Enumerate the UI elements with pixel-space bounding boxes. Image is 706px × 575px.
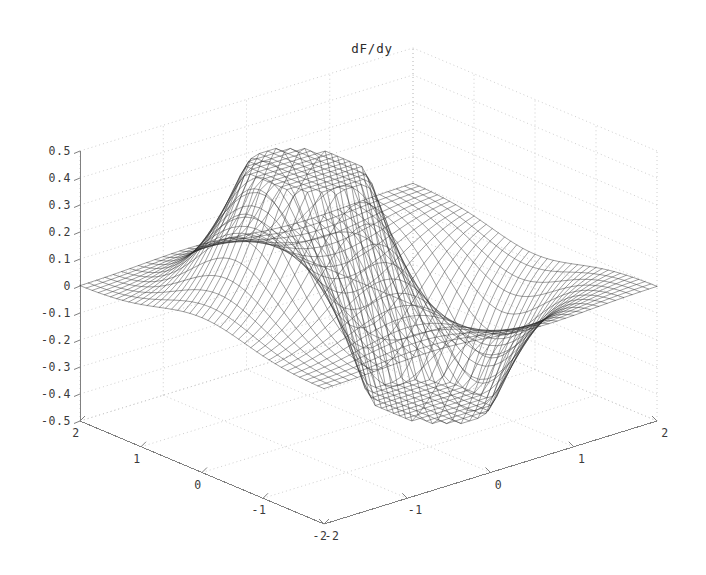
z-tick-mark xyxy=(74,313,80,316)
x-tick-mark xyxy=(263,493,268,498)
x-tick-label: 1 xyxy=(133,452,141,466)
z-tick-label: 0.1 xyxy=(48,252,71,266)
mesh-surface xyxy=(80,148,657,423)
y-tick-label: 2 xyxy=(661,426,669,440)
floor-grid-line xyxy=(263,395,596,498)
z-tick-mark xyxy=(74,205,80,208)
wall-grid-line xyxy=(413,75,657,178)
z-tick-label: 0.3 xyxy=(48,198,71,212)
x-tick-label: 2 xyxy=(72,426,80,440)
z-tick-mark xyxy=(74,421,80,424)
z-tick-mark xyxy=(74,394,80,397)
mesh-line-y xyxy=(396,189,640,292)
mesh-line-y xyxy=(388,192,632,297)
z-tick-mark xyxy=(74,286,80,289)
mesh-line-y xyxy=(97,280,341,383)
z-tick-label: 0.4 xyxy=(48,171,71,185)
mesh-line-y xyxy=(213,148,457,344)
x-tick-label: 0 xyxy=(194,478,202,492)
floor-grid-line xyxy=(141,344,474,447)
plot-title: dF/dy xyxy=(351,41,393,56)
y-tick-label: 0 xyxy=(495,478,503,492)
mesh-line-y xyxy=(280,228,524,424)
z-tick-label: -0.2 xyxy=(41,333,71,347)
y-tick-mark xyxy=(652,416,657,421)
mesh-line-y xyxy=(88,283,332,386)
z-tick-mark xyxy=(74,367,80,370)
z-tick-label: -0.5 xyxy=(41,414,71,428)
mesh-line-y xyxy=(105,275,349,380)
y-tick-mark xyxy=(569,442,574,447)
z-tick-label: -0.4 xyxy=(41,387,71,401)
x-tick-mark xyxy=(141,442,146,447)
mesh-line-y xyxy=(238,232,482,339)
surface-plot-svg: -0.5-0.4-0.3-0.2-0.100.10.20.30.40.5-2-1… xyxy=(0,0,706,575)
y-tick-label: -1 xyxy=(408,503,423,517)
x-tick-label: -1 xyxy=(251,503,266,517)
y-tick-mark xyxy=(402,493,407,498)
x-tick-mark xyxy=(80,416,85,421)
mesh-line-y xyxy=(255,233,499,340)
x-tick-mark xyxy=(202,468,207,473)
wall-grid-line xyxy=(80,75,413,178)
z-tick-mark xyxy=(74,232,80,235)
mesh-line-y xyxy=(288,225,532,423)
z-tick-label: -0.3 xyxy=(41,360,71,374)
z-tick-label: 0.5 xyxy=(48,144,71,158)
z-tick-mark xyxy=(74,178,80,181)
z-tick-label: 0 xyxy=(63,279,71,293)
y-tick-mark xyxy=(486,468,491,473)
floor-grid-line xyxy=(247,370,491,473)
z-tick-mark xyxy=(74,340,80,343)
axis-lines xyxy=(74,151,657,524)
mesh-line-y xyxy=(321,215,565,413)
wall-grid-line xyxy=(413,48,657,151)
mesh-line-y xyxy=(271,229,515,421)
mesh-line-y xyxy=(222,151,466,343)
z-tick-label: 0.2 xyxy=(48,225,71,239)
mesh-line-y xyxy=(172,159,416,357)
z-tick-label: -0.1 xyxy=(41,306,71,320)
mesh-line-y xyxy=(205,148,449,346)
y-tick-label: 1 xyxy=(578,452,586,466)
z-tick-mark xyxy=(74,259,80,262)
mesh-line-y xyxy=(247,235,491,338)
mesh-line-y xyxy=(405,186,649,289)
z-tick-mark xyxy=(74,151,80,154)
wall-grid-line xyxy=(80,48,413,151)
figure-canvas: -0.5-0.4-0.3-0.2-0.100.10.20.30.40.5-2-1… xyxy=(0,0,706,575)
y-tick-label: -2 xyxy=(324,529,339,543)
